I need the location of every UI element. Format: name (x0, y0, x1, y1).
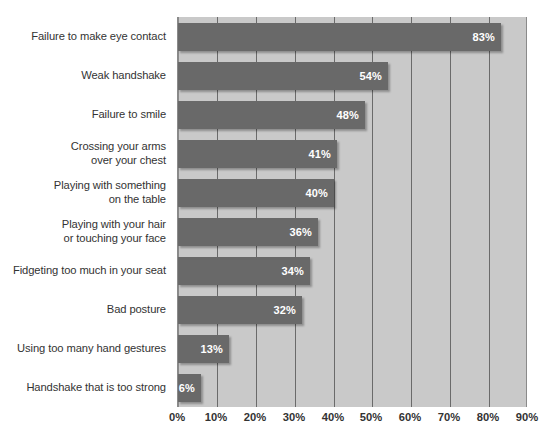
category-label-line: Weak handshake (0, 69, 166, 83)
category-label-line: Crossing your arms (0, 140, 166, 154)
category-label: Failure to smile (0, 108, 166, 122)
bar-row: 41% (178, 140, 527, 168)
bar[interactable]: 6% (178, 374, 201, 402)
bar-value-label: 6% (179, 382, 195, 394)
category-label-line: over your chest (0, 154, 166, 168)
x-tick-label: 30% (283, 411, 305, 423)
category-label-line: Playing with your hair (0, 218, 166, 232)
bar-row: 32% (178, 296, 527, 324)
category-label-line: Failure to make eye contact (0, 30, 166, 44)
x-axis-ticks: 0%10%20%30%40%50%60%70%80%90% (177, 407, 527, 437)
category-label: Using too many hand gestures (0, 342, 166, 356)
bar-value-label: 13% (200, 343, 223, 355)
bar[interactable]: 32% (178, 296, 302, 324)
x-tick-label: 70% (438, 411, 460, 423)
bar-value-label: 48% (336, 109, 359, 121)
category-label: Fidgeting too much in your seat (0, 264, 166, 278)
bar-row: 34% (178, 257, 527, 285)
bar-row: 54% (178, 62, 527, 90)
bar-row: 40% (178, 179, 527, 207)
bar-value-label: 34% (281, 265, 304, 277)
x-tick-label: 40% (322, 411, 344, 423)
category-label-line: Using too many hand gestures (0, 342, 166, 356)
x-tick-label: 90% (516, 411, 538, 423)
x-tick-label: 50% (360, 411, 382, 423)
bar[interactable]: 13% (178, 335, 229, 363)
bar-value-label: 54% (359, 70, 382, 82)
bar[interactable]: 54% (178, 62, 388, 90)
bar[interactable]: 36% (178, 218, 318, 246)
category-label-line: Handshake that is too strong (0, 381, 166, 395)
bar-value-label: 36% (289, 226, 312, 238)
category-label-line: Bad posture (0, 303, 166, 317)
bar-row: 48% (178, 101, 527, 129)
category-label: Playing with somethingon the table (0, 179, 166, 206)
category-label: Bad posture (0, 303, 166, 317)
plot-area: 83%54%48%41%40%36%34%32%13%6% (177, 17, 527, 407)
plot-inner: 83%54%48%41%40%36%34%32%13%6% (178, 17, 526, 407)
bar-value-label: 40% (305, 187, 328, 199)
category-label-line: or touching your face (0, 232, 166, 246)
bar-row: 13% (178, 335, 527, 363)
x-tick-label: 0% (169, 411, 185, 423)
bar-value-label: 83% (472, 31, 495, 43)
bar[interactable]: 83% (178, 23, 501, 51)
category-label-line: Fidgeting too much in your seat (0, 264, 166, 278)
category-axis-labels: Failure to make eye contactWeak handshak… (0, 17, 172, 407)
category-label-line: Playing with something (0, 179, 166, 193)
x-tick-label: 80% (477, 411, 499, 423)
category-label: Handshake that is too strong (0, 381, 166, 395)
category-label: Weak handshake (0, 69, 166, 83)
bar[interactable]: 34% (178, 257, 310, 285)
bar-value-label: 41% (308, 148, 331, 160)
bar-row: 6% (178, 374, 527, 402)
bar-value-label: 32% (273, 304, 296, 316)
category-label: Failure to make eye contact (0, 30, 166, 44)
category-label-line: Failure to smile (0, 108, 166, 122)
bar-row: 83% (178, 23, 527, 51)
category-label-line: on the table (0, 193, 166, 207)
bar-chart: Failure to make eye contactWeak handshak… (0, 0, 548, 444)
bar[interactable]: 41% (178, 140, 337, 168)
bar[interactable]: 48% (178, 101, 365, 129)
x-tick-label: 20% (244, 411, 266, 423)
x-tick-label: 10% (205, 411, 227, 423)
category-label: Playing with your hairor touching your f… (0, 218, 166, 245)
bar[interactable]: 40% (178, 179, 334, 207)
bar-row: 36% (178, 218, 527, 246)
x-tick-label: 60% (399, 411, 421, 423)
category-label: Crossing your armsover your chest (0, 140, 166, 167)
